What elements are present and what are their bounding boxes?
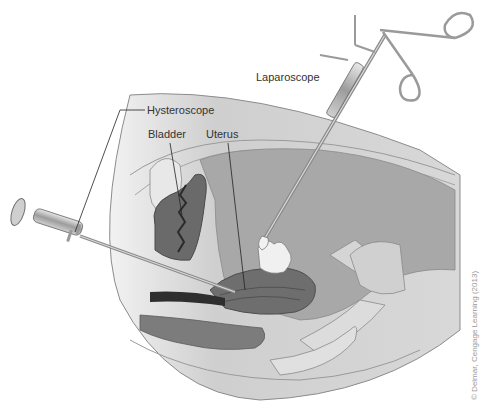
label-laparoscope: Laparoscope xyxy=(256,71,320,83)
label-uterus: Uterus xyxy=(206,128,238,140)
copyright-credit: © Delmar, Cengage Learning (2013) xyxy=(470,271,479,400)
illustration-canvas: Laparoscope Hysteroscope Bladder Uterus … xyxy=(0,0,491,411)
label-hysteroscope: Hysteroscope xyxy=(147,104,214,116)
anatomy-diagram xyxy=(0,0,491,411)
label-bladder: Bladder xyxy=(148,128,186,140)
